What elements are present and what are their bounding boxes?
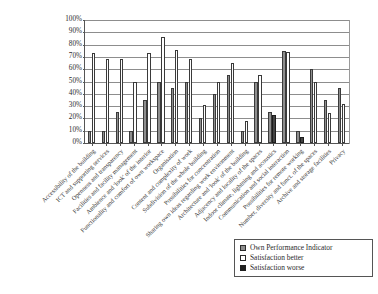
bar-own (171, 88, 174, 143)
x-axis-label: Openness and transparency (70, 148, 124, 202)
x-tick-mark (328, 143, 329, 146)
x-axis-label: Sharing own ideas regarding work environ… (145, 148, 236, 239)
y-tick-mark (83, 32, 85, 33)
bar-own (324, 100, 327, 143)
bar-own (338, 88, 341, 143)
bar-better (203, 105, 206, 143)
legend-item: Satisfaction worse (240, 263, 368, 273)
x-axis-label: ICT and supporting services (55, 148, 111, 204)
x-tick-mark (189, 143, 190, 146)
y-tick-mark (83, 69, 85, 70)
chart-legend: Own Performance IndicatorSatisfaction be… (234, 239, 373, 277)
x-tick-mark (286, 143, 287, 146)
x-tick-mark (148, 143, 149, 146)
bar-own (185, 82, 188, 144)
legend-label: Satisfaction worse (250, 264, 304, 272)
bar-own (157, 82, 160, 144)
bar-group (168, 20, 182, 143)
bar-group (196, 20, 210, 143)
bar-own (296, 131, 299, 143)
y-tick-label: 90% (69, 29, 82, 36)
legend-swatch-better (240, 255, 246, 261)
x-axis-label: Possibilities for concentration (163, 148, 222, 207)
bar-own (254, 82, 257, 144)
bar-better (245, 121, 248, 143)
x-axis-label: Number, diversity and funct. of the spac… (238, 148, 319, 229)
bar-better (328, 113, 331, 143)
y-tick-mark (83, 57, 85, 58)
bar-worse (272, 115, 275, 143)
bar-own (213, 94, 216, 143)
bar-better (147, 53, 150, 143)
x-axis-label: Content and complexity of work (130, 148, 194, 212)
y-tick-mark (83, 131, 85, 132)
bar-own (282, 51, 285, 143)
bar-group (321, 20, 335, 143)
y-tick-label: 80% (69, 41, 82, 48)
x-axis-label: Accessibility of the building (41, 148, 97, 204)
bars-layer (85, 20, 349, 143)
x-tick-mark (259, 143, 260, 146)
bar-better (175, 50, 178, 143)
bar-own (199, 118, 202, 143)
x-tick-mark (134, 143, 135, 146)
bar-group (85, 20, 99, 143)
bar-group (141, 20, 155, 143)
bar-group (293, 20, 307, 143)
x-tick-mark (231, 143, 232, 146)
x-axis-label: Privacy (328, 148, 347, 167)
legend-swatch-worse (240, 265, 246, 271)
x-axis-label: Facilities and facility management (71, 148, 138, 215)
bar-better (217, 82, 220, 144)
y-tick-mark (83, 20, 85, 21)
y-tick-label: 0% (72, 139, 82, 146)
bar-own (241, 131, 244, 143)
bar-own (88, 131, 91, 143)
bar-own (268, 112, 271, 143)
bar-own (102, 131, 105, 143)
bar-better (133, 82, 136, 144)
bar-group (224, 20, 238, 143)
y-tick-label: 10% (69, 127, 82, 134)
bar-better (120, 59, 123, 143)
bar-better (189, 59, 192, 143)
bar-group (335, 20, 349, 143)
legend-swatch-own (240, 245, 246, 251)
bar-own (116, 112, 119, 143)
bar-group (280, 20, 294, 143)
x-axis-label: Possibilities for remote working (242, 148, 305, 211)
bar-better (92, 53, 95, 143)
bar-group (266, 20, 280, 143)
y-tick-label: 30% (69, 102, 82, 109)
y-tick-mark (83, 94, 85, 95)
legend-item: Satisfaction better (240, 253, 368, 263)
bar-own (227, 75, 230, 143)
legend-label: Own Performance Indicator (250, 244, 333, 252)
legend-item: Own Performance Indicator (240, 243, 368, 253)
x-tick-mark (273, 143, 274, 146)
x-axis-label: Communication and social interaction (218, 148, 292, 222)
x-axis-label: Ambience and 'look' of the interior (85, 148, 153, 216)
x-axis-label: Subdivision of the whole building (142, 148, 208, 214)
x-tick-mark (314, 143, 315, 146)
y-axis: 0%10%20%30%40%50%60%70%80%90%100% (52, 20, 82, 144)
y-tick-label: 40% (69, 90, 82, 97)
bar-better (342, 104, 345, 143)
bar-group (154, 20, 168, 143)
legend-label: Satisfaction better (250, 254, 304, 262)
y-tick-mark (83, 82, 85, 83)
x-tick-mark (106, 143, 107, 146)
bar-group (99, 20, 113, 143)
y-tick-mark (83, 106, 85, 107)
x-axis-label: Adjacency and locality of the spaces (193, 148, 264, 219)
x-tick-mark (217, 143, 218, 146)
x-tick-mark (245, 143, 246, 146)
x-tick-mark (92, 143, 93, 146)
bar-better (314, 82, 317, 144)
x-tick-mark (161, 143, 162, 146)
y-tick-label: 70% (69, 53, 82, 60)
bar-group (127, 20, 141, 143)
x-axis-label: Functionality and comfort of own workspa… (80, 148, 166, 234)
bar-better (106, 59, 109, 143)
x-axis-label: Archive and storage facilities (275, 148, 333, 206)
